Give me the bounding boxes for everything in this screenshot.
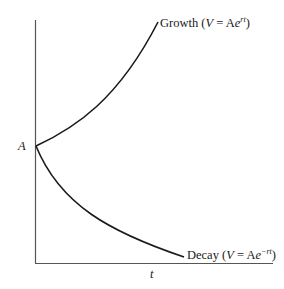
exponential-chart bbox=[0, 0, 284, 289]
growth-curve bbox=[36, 22, 158, 146]
growth-label-suffix: ) bbox=[246, 16, 250, 30]
decay-label-suffix: ) bbox=[272, 248, 276, 262]
decay-curve bbox=[36, 146, 184, 257]
decay-label-eq: = A bbox=[234, 248, 256, 262]
growth-label-eq: = A bbox=[213, 16, 235, 30]
decay-label-exp: −rt bbox=[261, 247, 272, 256]
x-axis-label: t bbox=[150, 268, 153, 281]
growth-label-var: V bbox=[205, 16, 213, 30]
y-intercept-label: A bbox=[18, 140, 26, 153]
decay-label-prefix: Decay ( bbox=[187, 248, 226, 262]
growth-label-prefix: Growth ( bbox=[160, 16, 205, 30]
decay-label: Decay (V = Ae−rt) bbox=[187, 249, 276, 262]
growth-label: Growth (V = Aert) bbox=[160, 17, 250, 30]
decay-label-var: V bbox=[226, 248, 234, 262]
